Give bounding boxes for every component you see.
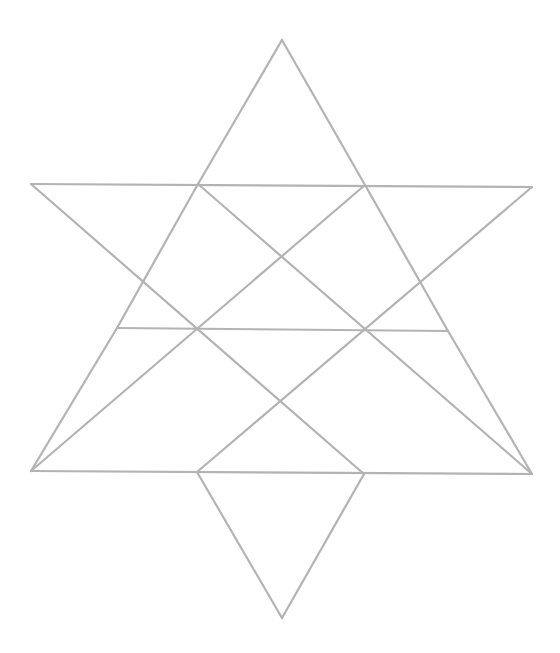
line-right-lower-edge — [448, 331, 532, 474]
line-diag-f — [365, 185, 448, 331]
star-lines — [31, 40, 532, 618]
hexagram-figure — [0, 0, 560, 653]
line-bottom-right-edge — [282, 474, 364, 618]
line-top-right-edge — [282, 40, 365, 185]
line-upper-horizontal — [31, 184, 532, 187]
line-top-left-edge — [198, 40, 282, 184]
hexagram-diagram — [0, 0, 560, 653]
line-diag-e — [117, 184, 198, 328]
line-bottom-left-edge — [197, 472, 282, 618]
line-lower-horizontal — [31, 471, 532, 474]
line-left-lower-edge — [31, 328, 117, 471]
line-middle-horizontal — [117, 328, 448, 331]
